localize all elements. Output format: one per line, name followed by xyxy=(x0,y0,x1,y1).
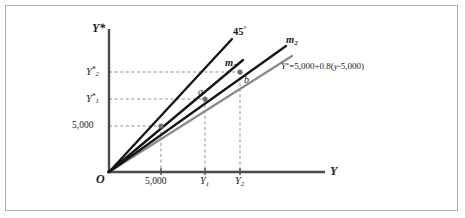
x-tick-label-y1: Y1 xyxy=(200,176,209,188)
point-marker-5000 xyxy=(158,123,163,128)
line-label-m1: m1 xyxy=(225,58,237,70)
line-m1 xyxy=(109,60,243,172)
x-axis-label: Y xyxy=(330,165,337,177)
y2star-sub: 2 xyxy=(96,70,99,77)
y-tick-label-y1star: Y*1 xyxy=(86,93,99,105)
m2-sub: 2 xyxy=(294,39,297,46)
y1star-sub: 1 xyxy=(96,97,99,104)
line-label-45-degree: 45° xyxy=(233,26,246,37)
equation-body: =5,000+0.8( xyxy=(289,61,334,71)
point-marker-a xyxy=(202,96,207,101)
x-tick-label-5000: 5,000 xyxy=(145,177,166,187)
y-axis-label: Y* xyxy=(92,22,105,34)
point-label-b: b xyxy=(244,75,249,85)
point-label-a: a xyxy=(198,87,203,97)
origin-label: O xyxy=(96,173,105,185)
degree-sign: ° xyxy=(244,25,247,34)
line-label-m2: m2 xyxy=(286,35,298,47)
y-tick-label-5000: 5,000 xyxy=(72,121,93,131)
point-marker-b xyxy=(237,69,242,74)
equation-annotation: Y*=5,000+0.8(y-5,000) xyxy=(281,62,364,71)
m1-sub: 1 xyxy=(233,62,236,69)
equation-tail: -5,000) xyxy=(338,61,364,71)
line-m2 xyxy=(109,46,286,172)
x-tick-label-y2: Y2 xyxy=(235,176,244,188)
y-tick-label-y2star: Y*2 xyxy=(86,66,99,78)
xy1-sub: 1 xyxy=(206,180,209,187)
xy2-sub: 2 xyxy=(241,180,244,187)
